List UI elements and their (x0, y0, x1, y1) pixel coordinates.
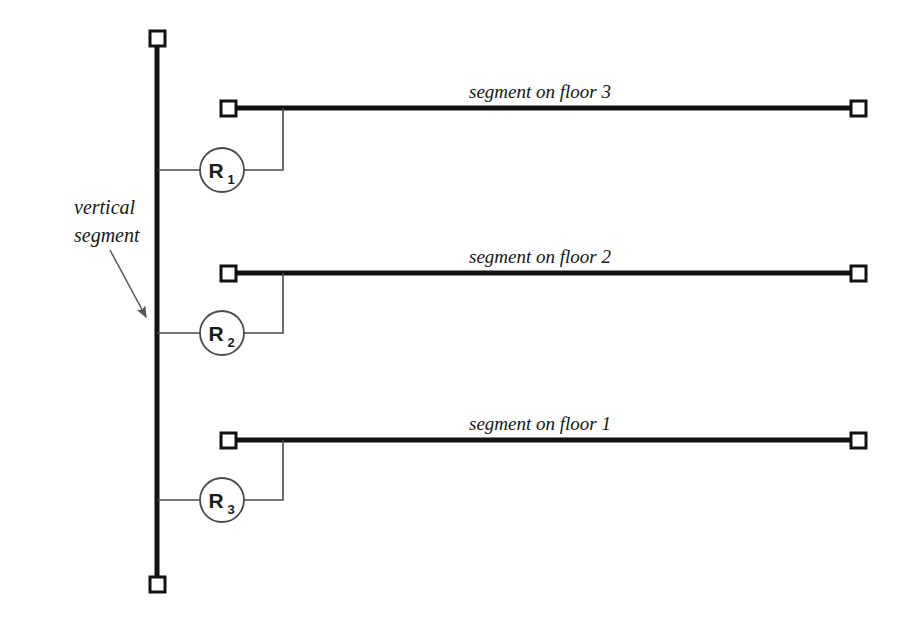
vertical-segment-callout: vertical segment (74, 196, 146, 317)
router-1-label: R (208, 159, 223, 182)
router-2[interactable]: R 2 (200, 311, 244, 355)
vertical-segment-group (150, 31, 165, 592)
floor-1-right-terminator (851, 433, 866, 448)
floor-1-label: segment on floor 1 (469, 413, 611, 434)
floor-2-left-terminator (221, 266, 236, 281)
callout-line-2: segment (74, 224, 140, 247)
vertical-segment-top-terminator (150, 31, 165, 46)
callout-arrow (110, 250, 146, 317)
floor-3-right-terminator (851, 101, 866, 116)
diagram-canvas: segment on floor 3 segment on floor 2 se… (0, 0, 910, 622)
network-diagram: segment on floor 3 segment on floor 2 se… (0, 0, 910, 622)
router-1[interactable]: R 1 (200, 148, 244, 192)
floor-2-label: segment on floor 2 (469, 246, 611, 267)
floor-3-label: segment on floor 3 (469, 81, 611, 102)
vertical-segment-bottom-terminator (150, 577, 165, 592)
floor-1-segment-group: segment on floor 1 (221, 413, 866, 448)
router-2-label: R (208, 322, 223, 345)
router-1-subscript: 1 (227, 172, 234, 187)
floor-2-right-terminator (851, 266, 866, 281)
router-3-subscript: 3 (227, 502, 234, 517)
floor-3-left-terminator (221, 101, 236, 116)
router-2-right-link (244, 273, 283, 333)
floor-1-left-terminator (221, 433, 236, 448)
router-2-subscript: 2 (227, 335, 234, 350)
router-3-right-link (244, 440, 283, 500)
router-1-right-link (244, 108, 283, 170)
callout-line-1: vertical (74, 196, 136, 218)
router-3-label: R (208, 489, 223, 512)
floor-2-segment-group: segment on floor 2 (221, 246, 866, 281)
router-3[interactable]: R 3 (200, 478, 244, 522)
floor-3-segment-group: segment on floor 3 (221, 81, 866, 116)
